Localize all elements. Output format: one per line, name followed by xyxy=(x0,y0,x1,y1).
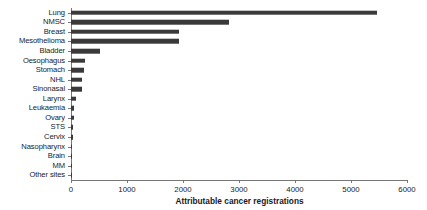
category-label: NHL xyxy=(50,76,65,84)
bar-row xyxy=(71,154,72,159)
bar xyxy=(71,68,84,73)
category-label: Cervix xyxy=(44,133,65,141)
category-axis: LungNMSCBreastMesotheliomaBladderOesopha… xyxy=(0,8,68,180)
x-axis-tick-label: 3000 xyxy=(230,185,247,194)
bar-row xyxy=(71,10,377,15)
bar-row xyxy=(71,87,82,92)
category-label: Brain xyxy=(48,152,65,160)
category-label: Breast xyxy=(44,28,65,36)
category-label: Mesothelioma xyxy=(19,38,65,46)
bar-row xyxy=(71,77,82,82)
x-axis-title: Attributable cancer registrations xyxy=(71,196,408,206)
x-axis-tick-label: 5000 xyxy=(342,185,359,194)
bar-row xyxy=(71,106,74,111)
category-label: MM xyxy=(53,162,65,170)
category-label: Leukaemia xyxy=(29,105,65,113)
bar xyxy=(71,163,72,168)
bar xyxy=(71,20,229,25)
x-axis-tick xyxy=(127,180,128,183)
bar xyxy=(71,58,85,63)
bar xyxy=(71,125,73,130)
bar-row xyxy=(71,30,179,35)
category-label: Stomach xyxy=(36,66,65,74)
category-label: Ovary xyxy=(45,114,65,122)
category-label: Other sites xyxy=(29,171,65,179)
x-axis-tick xyxy=(351,180,352,183)
x-axis-tick xyxy=(407,180,408,183)
bar xyxy=(71,10,377,15)
bar xyxy=(71,173,72,178)
x-axis-tick xyxy=(239,180,240,183)
bar-row xyxy=(71,39,179,44)
bar-row xyxy=(71,116,74,121)
bar-row xyxy=(71,49,100,54)
bar xyxy=(71,154,72,159)
category-label: Lung xyxy=(49,9,66,17)
bar xyxy=(71,30,179,35)
x-axis-tick-label: 6000 xyxy=(398,185,415,194)
x-axis-tick xyxy=(295,180,296,183)
bar-row xyxy=(71,135,73,140)
bar-row xyxy=(71,58,85,63)
bar xyxy=(71,87,82,92)
x-axis-tick xyxy=(183,180,184,183)
bar xyxy=(71,96,76,101)
category-label: Larynx xyxy=(43,95,65,103)
category-label: Bladder xyxy=(40,47,65,55)
bar xyxy=(71,77,82,82)
bar xyxy=(71,39,179,44)
x-axis-tick-label: 0 xyxy=(69,185,73,194)
bar-row xyxy=(71,68,84,73)
x-axis-tick xyxy=(71,180,72,183)
bar-chart: LungNMSCBreastMesotheliomaBladderOesopha… xyxy=(0,0,427,210)
category-label: NMSC xyxy=(43,19,65,27)
bar-row xyxy=(71,20,229,25)
category-label: Nasopharynx xyxy=(21,143,65,151)
bar-row xyxy=(71,96,76,101)
x-axis-tick-label: 2000 xyxy=(174,185,191,194)
bar xyxy=(71,49,100,54)
x-axis-tick-label: 4000 xyxy=(286,185,303,194)
bar xyxy=(71,116,74,121)
bar xyxy=(71,144,72,149)
category-label: Oesophagus xyxy=(23,57,65,65)
bar xyxy=(71,135,73,140)
x-axis-tick-label: 1000 xyxy=(118,185,135,194)
bar-row xyxy=(71,173,72,178)
bar xyxy=(71,106,74,111)
bar-row xyxy=(71,144,72,149)
category-label: Sinonasal xyxy=(33,85,65,93)
bar-row xyxy=(71,125,73,130)
category-label: STS xyxy=(51,124,65,132)
bar-row xyxy=(71,163,72,168)
plot-area xyxy=(71,8,407,180)
